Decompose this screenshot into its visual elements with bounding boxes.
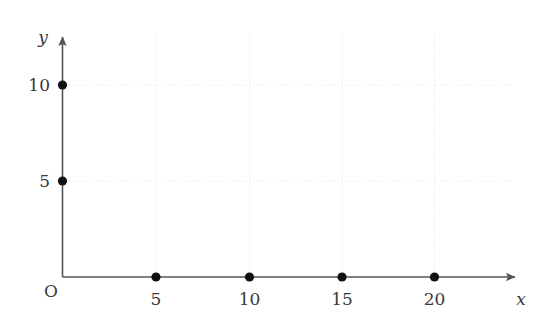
gridlines-horizontal	[63, 85, 513, 181]
data-point-0-10	[58, 80, 67, 89]
gridlines-vertical	[156, 33, 435, 277]
y-tick-label-10: 10	[28, 75, 50, 95]
coordinate-plot: 10 5 5 10 15 20 O y x	[0, 0, 555, 328]
x-tick-label-15: 15	[331, 289, 353, 309]
data-point-0-5	[58, 176, 67, 185]
y-tick-labels: 10 5	[28, 75, 50, 191]
axes	[63, 37, 516, 277]
x-tick-label-20: 20	[424, 289, 446, 309]
data-point-15-0	[337, 272, 346, 281]
data-point-5-0	[151, 272, 160, 281]
plot-canvas: 10 5 5 10 15 20 O y x	[0, 0, 555, 328]
x-axis-label: x	[516, 289, 526, 309]
data-points	[58, 80, 439, 281]
y-tick-label-5: 5	[39, 171, 50, 191]
data-point-10-0	[245, 272, 254, 281]
origin-label: O	[44, 281, 58, 301]
data-point-20-0	[430, 272, 439, 281]
x-tick-label-10: 10	[239, 289, 261, 309]
x-tick-label-5: 5	[151, 289, 162, 309]
y-axis-label: y	[37, 27, 48, 47]
x-tick-labels: 5 10 15 20	[151, 289, 446, 309]
